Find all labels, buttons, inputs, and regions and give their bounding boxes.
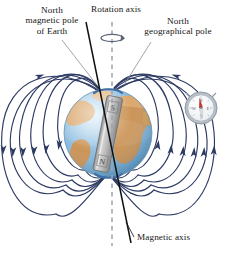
label-line: Rotation axis — [74, 4, 158, 14]
label-line: Magnetic axis — [137, 232, 223, 242]
label-line: of Earth — [6, 26, 98, 36]
label-line: North — [132, 16, 224, 26]
rotation-direction-icon — [101, 34, 125, 41]
label-north-geographical-pole: North geographical pole — [132, 16, 224, 37]
field-arrow — [0, 145, 7, 155]
field-arrow — [42, 144, 49, 155]
earth-magnetic-field-diagram: S N N E S W — [0, 0, 225, 260]
compass-east-label: E — [207, 106, 210, 111]
label-rotation-axis: Rotation axis — [74, 4, 158, 14]
label-line: magnetic pole — [6, 15, 98, 25]
label-magnetic-axis: Magnetic axis — [137, 232, 223, 242]
compass-west-label: W — [192, 106, 197, 111]
rotation-arrowhead — [121, 35, 125, 42]
compass[interactable]: N E S W — [185, 92, 217, 124]
label-line: geographical pole — [132, 26, 224, 36]
compass-pivot — [200, 107, 202, 109]
field-arrow — [167, 144, 174, 155]
